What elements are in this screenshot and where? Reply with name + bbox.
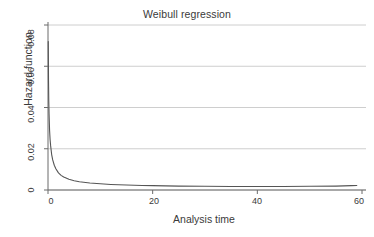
weibull-regression-chart: Weibull regression Hazard function Analy… bbox=[0, 0, 374, 237]
gridlines bbox=[48, 25, 366, 190]
axis-lines bbox=[48, 22, 366, 190]
plot-area bbox=[0, 0, 374, 237]
hazard-curve-line bbox=[48, 42, 357, 187]
tick-marks bbox=[44, 25, 362, 194]
